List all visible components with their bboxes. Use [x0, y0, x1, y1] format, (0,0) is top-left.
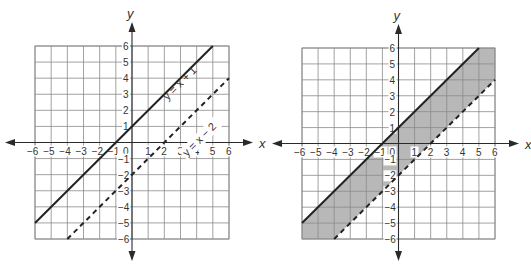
svg-text:1: 1: [145, 146, 151, 157]
svg-text:4: 4: [460, 147, 466, 158]
svg-text:5: 5: [476, 147, 482, 158]
svg-text:1: 1: [412, 147, 418, 158]
svg-text:−4: −4: [59, 146, 71, 157]
svg-text:2: 2: [428, 147, 434, 158]
svg-text:2: 2: [161, 146, 167, 157]
svg-text:−6: −6: [294, 147, 306, 158]
svg-text:−3: −3: [76, 146, 88, 157]
svg-text:6: 6: [390, 43, 396, 54]
svg-text:−5: −5: [385, 218, 397, 229]
svg-text:2: 2: [123, 105, 129, 116]
svg-text:−1: −1: [118, 154, 130, 165]
label-line-1: y = x + 1: [160, 64, 198, 102]
svg-text:−1: −1: [385, 154, 397, 165]
svg-text:6: 6: [123, 41, 129, 52]
svg-text:−5: −5: [310, 147, 322, 158]
chart-canvas: xy−6−5−4−3−2−10123456−6−5−4−3−2−1123456y…: [0, 0, 531, 264]
svg-text:5: 5: [210, 146, 216, 157]
svg-text:−4: −4: [326, 147, 338, 158]
svg-text:−6: −6: [27, 146, 39, 157]
y-axis-label: y: [126, 6, 135, 21]
svg-text:5: 5: [123, 57, 129, 68]
x-axis-label: x: [258, 136, 266, 151]
svg-text:6: 6: [492, 147, 498, 158]
svg-text:4: 4: [390, 75, 396, 86]
svg-text:−6: −6: [118, 234, 130, 245]
svg-text:6: 6: [226, 146, 232, 157]
svg-text:4: 4: [123, 73, 129, 84]
svg-text:3: 3: [444, 147, 450, 158]
x-axis-label: x: [524, 137, 531, 152]
svg-text:−6: −6: [385, 234, 397, 245]
y-axis-label: y: [393, 8, 402, 23]
svg-text:−4: −4: [385, 202, 397, 213]
svg-text:3: 3: [390, 91, 396, 102]
svg-text:−2: −2: [358, 147, 370, 158]
svg-text:2: 2: [390, 107, 396, 118]
svg-text:5: 5: [390, 59, 396, 70]
svg-text:−4: −4: [118, 202, 130, 213]
svg-text:−2: −2: [92, 146, 104, 157]
svg-text:−5: −5: [43, 146, 55, 157]
graph-panel-2: xy−6−5−4−3−2−10123456−6−5−4−3−2−1123456: [272, 8, 531, 261]
graph-panel-1: xy−6−5−4−3−2−10123456−6−5−4−3−2−1123456y…: [5, 6, 266, 261]
svg-text:−5: −5: [118, 218, 130, 229]
svg-text:−3: −3: [342, 147, 354, 158]
svg-text:3: 3: [123, 89, 129, 100]
